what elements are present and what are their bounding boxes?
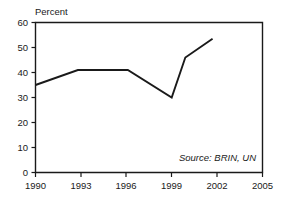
x-tick-label-1999: 1999	[161, 180, 182, 191]
x-tick-label-2002: 2002	[206, 180, 227, 191]
y-tick-label-30: 30	[17, 92, 28, 103]
y-tick-label-20: 20	[17, 117, 28, 128]
y-tick-label-0: 0	[23, 167, 28, 178]
source-note: Source: BRIN, UN	[179, 152, 256, 163]
y-tick-label-40: 40	[17, 67, 28, 78]
data-line-percent	[36, 39, 213, 98]
x-tick-label-1993: 1993	[70, 180, 91, 191]
x-axis-tick-labels: 1990 1993 1996 1999 2002 2005	[25, 180, 273, 191]
x-tick-label-1990: 1990	[25, 180, 46, 191]
line-chart: Percent 60 50 40 30 20 10 0	[0, 0, 288, 202]
y-axis-title: Percent	[35, 6, 68, 17]
y-tick-label-10: 10	[17, 142, 28, 153]
x-tick-label-1996: 1996	[115, 180, 136, 191]
y-axis-tick-labels: 60 50 40 30 20 10 0	[17, 17, 28, 178]
chart-container: Percent 60 50 40 30 20 10 0	[0, 0, 288, 202]
frame-border	[36, 23, 263, 173]
y-tick-label-60: 60	[17, 17, 28, 28]
y-tick-label-50: 50	[17, 42, 28, 53]
x-tick-label-2005: 2005	[252, 180, 273, 191]
plot-frame	[36, 23, 263, 173]
